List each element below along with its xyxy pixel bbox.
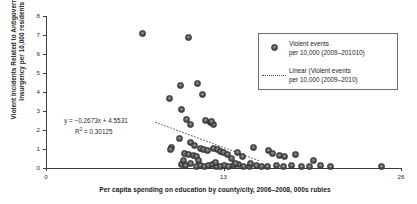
y-axis-title: Violent Incidents Related to Antigovernm…: [10, 0, 26, 127]
data-point: [194, 80, 201, 87]
x-axis-title: Per capita spending on education by coun…: [30, 186, 400, 193]
legend-label-line2: per 10,000 (2009–201010): [289, 49, 365, 58]
data-point: [306, 163, 313, 170]
legend-marker-sample: [259, 40, 289, 51]
data-point: [264, 163, 271, 170]
y-tick-label: 4: [37, 88, 40, 95]
legend-label-line1: Linear (Violent events: [289, 67, 358, 76]
equation-line: y = −0.2673x + 4.5531: [64, 116, 128, 125]
y-tick-label: 1: [37, 145, 40, 152]
legend-item-violent-events: Violent events per 10,000 (2009–201010): [259, 40, 397, 60]
y-tick-label: 3: [37, 107, 40, 114]
chart-legend: Violent events per 10,000 (2009–201010) …: [258, 33, 398, 90]
data-point: [212, 159, 219, 166]
y-tick-label: 5: [37, 69, 40, 76]
dotted-line-icon: [262, 75, 286, 76]
r-squared-line: R2 = 0.30125: [64, 125, 128, 136]
legend-label-line2: per 10,000 (2009–2010): [289, 76, 358, 85]
data-point: [280, 163, 287, 170]
regression-equation: y = −0.2673x + 4.5531 R2 = 0.30125: [64, 116, 128, 136]
x-tick: [401, 168, 402, 171]
data-point: [185, 34, 192, 41]
y-tick-label: 7: [37, 31, 40, 38]
r-squared-value: = 0.30125: [82, 128, 112, 135]
x-tick-label: 0: [44, 173, 47, 180]
legend-label-line1: Violent events: [289, 40, 365, 49]
legend-item-linear-trend: Linear (Violent events per 10,000 (2009–…: [259, 67, 397, 87]
data-point: [177, 82, 184, 89]
y-tick-label: 6: [37, 50, 40, 57]
data-point: [176, 135, 183, 142]
data-point: [187, 121, 194, 128]
data-point: [378, 163, 385, 170]
data-point: [250, 144, 257, 151]
data-point: [298, 163, 305, 170]
legend-label-linear-trend: Linear (Violent events per 10,000 (2009–…: [289, 67, 358, 84]
scatter-chart: Violent Incidents Related to Antigovernm…: [0, 0, 417, 204]
x-tick-label: 13: [220, 173, 227, 180]
y-tick-label: 0: [37, 164, 40, 171]
data-point: [180, 157, 187, 164]
data-point: [199, 91, 206, 98]
data-point: [327, 163, 334, 170]
data-point: [195, 157, 202, 164]
x-tick-label: 26: [398, 173, 405, 180]
data-point: [232, 160, 239, 167]
y-tick-label: 8: [37, 12, 40, 19]
data-point: [178, 106, 185, 113]
legend-line-sample: [259, 67, 289, 76]
circle-marker-icon: [271, 44, 278, 51]
legend-label-violent-events: Violent events per 10,000 (2009–201010): [289, 40, 365, 57]
y-tick-label: 2: [37, 126, 40, 133]
